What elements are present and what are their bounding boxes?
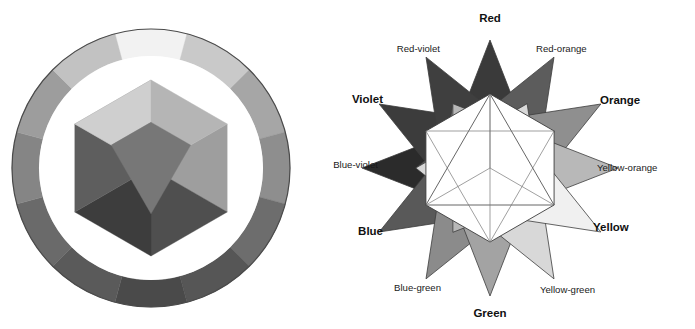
star-label-blue-green: Blue-green [394,282,441,293]
star-label-red-violet: Red-violet [397,43,441,54]
star-label-blue-violet: Blue-violet [333,159,378,170]
star-label-yellow-green: Yellow-green [540,284,595,295]
figure-root: RedRed-orangeOrangeYellow-orangeYellowYe… [0,0,695,329]
star-label-red-orange: Red-orange [536,43,587,54]
color-wheel-svg [0,0,330,329]
wheel-segment-red-orange [259,132,290,204]
star-label-red: Red [479,12,501,24]
wheel-segment-yellow [115,29,187,60]
color-star-svg: RedRed-orangeOrangeYellow-orangeYellowYe… [300,0,695,329]
star-label-violet: Violet [352,93,383,105]
star-label-blue: Blue [358,225,383,237]
color-star-panel: RedRed-orangeOrangeYellow-orangeYellowYe… [300,0,695,329]
color-wheel-panel [0,0,330,329]
wheel-segment-blue-green [12,132,43,204]
star-label-yellow-orange: Yellow-orange [597,162,657,173]
wheel-segment-violet [115,276,187,307]
star-label-yellow: Yellow [593,221,629,233]
star-label-orange: Orange [600,94,640,106]
star-label-green: Green [473,307,506,319]
